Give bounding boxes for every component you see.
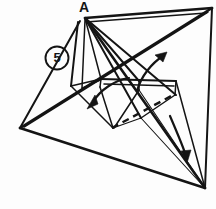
origami-diagram-figure: 5 A [0,0,216,209]
step-number-label: 5 [53,50,60,65]
origami-diagram-canvas: 5 A [0,0,216,209]
base-triangle-group [20,8,212,188]
left-flap-spine [82,20,85,88]
ridge-riser-left [100,79,101,87]
apex-line-down-left-to-leftvertex [20,21,80,128]
apex-line-to-topright [85,8,212,18]
sliver-edge-to-bottomright [139,90,205,188]
apex-point-label: A [79,0,89,15]
base-edge-left-to-topright-inner [24,12,208,127]
apex-fan-group [20,8,212,188]
base-edge-topright-to-bottomright [205,8,212,188]
step-number-badge: 5 [46,47,69,70]
